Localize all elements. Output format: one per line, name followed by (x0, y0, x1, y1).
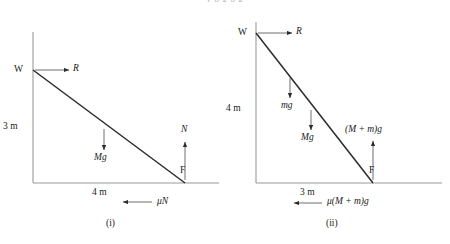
label-normal-m-plus-m-g-ii: (M + m)g (345, 125, 382, 135)
label-friction-mu-m-plus-m-g-ii: μ(M + m)g (327, 197, 369, 207)
label-wall-point-w-i: W (14, 65, 23, 75)
diagram-i-group (33, 32, 219, 202)
label-weight-mg-i: Mg (94, 153, 107, 163)
label-base-3m-ii: 3 m (300, 188, 315, 198)
figure-container: y p g p g (0, 0, 450, 244)
label-base-4m-i: 4 m (92, 188, 107, 198)
label-friction-mu-n-i: μN (157, 197, 168, 207)
label-ladder-weight-mg-ii: mg (281, 101, 293, 111)
label-foot-point-f-i: F (180, 166, 185, 176)
label-reaction-r-i: R (73, 64, 79, 74)
figure-drawing (0, 0, 450, 244)
label-reaction-r-ii: R (296, 27, 302, 37)
ladder-line-i (33, 70, 185, 183)
ladder-line-ii (256, 33, 373, 183)
label-normal-n-i: N (181, 125, 187, 135)
caption-i: (i) (106, 219, 115, 229)
label-foot-point-f-ii: F (369, 166, 374, 176)
label-wall-point-w-ii: W (238, 28, 247, 38)
label-person-weight-mg-ii: Mg (301, 133, 314, 143)
caption-ii: (ii) (326, 219, 338, 229)
label-height-3m-i: 3 m (3, 122, 18, 132)
label-height-4m-ii: 4 m (226, 104, 241, 114)
diagram-ii-group (256, 22, 442, 203)
